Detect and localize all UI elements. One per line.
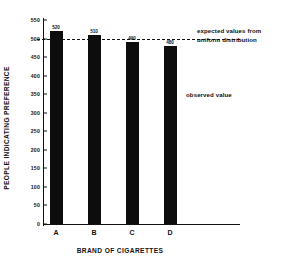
y-axis-tickmark [43, 149, 47, 150]
y-axis-tickmark [43, 94, 47, 95]
plot-area: 501001502002503003504004505005500 520510… [43, 20, 238, 224]
bar-b: 510 [88, 35, 101, 224]
chart-container: 501001502002503003504004505005500 520510… [0, 0, 290, 269]
y-axis-tick-label: 400 [31, 73, 40, 79]
y-axis-tickmark [43, 205, 47, 206]
y-axis-tick-label: 350 [31, 91, 40, 97]
bar-c: 490 [126, 42, 139, 224]
annotation-expected-values: expected values from uniform distributio… [197, 27, 261, 45]
y-axis-tickmark [43, 75, 47, 76]
x-axis-line [43, 224, 240, 225]
y-axis-tickmark [43, 112, 47, 113]
y-axis-tickmark [43, 224, 47, 225]
x-axis-title: BRAND OF CIGARETTES [0, 247, 240, 254]
y-axis-tick-label: 50 [34, 202, 40, 208]
y-axis-tickmark [43, 131, 47, 132]
x-axis-label-c: C [129, 229, 134, 236]
y-axis-tick-label: 300 [31, 110, 40, 116]
y-axis-tickmark [43, 20, 47, 21]
y-axis-tick-label: 550 [31, 17, 40, 23]
y-axis-tickmark [43, 186, 47, 187]
bar-value-label: 520 [52, 25, 60, 30]
y-axis-tick-label: 0 [37, 221, 40, 227]
y-axis-tick-label: 100 [31, 184, 40, 190]
y-axis-tickmark [43, 57, 47, 58]
bar-value-label: 510 [90, 29, 98, 34]
y-axis-tick-label: 200 [31, 147, 40, 153]
x-axis-label-d: D [167, 229, 172, 236]
annotation-expected-line-1: expected values from [197, 27, 261, 36]
y-axis-tick-label: 450 [31, 54, 40, 60]
bar-a: 520 [50, 31, 63, 224]
annotation-expected-line-2: uniform distribution [197, 36, 261, 45]
y-axis-title: PEOPLE INDICATING PREFERENCE [3, 66, 10, 189]
bar-value-label: 480 [166, 40, 174, 45]
y-axis-tick-label: 250 [31, 128, 40, 134]
x-axis-label-a: A [53, 229, 58, 236]
x-axis-label-b: B [91, 229, 96, 236]
bar-d: 480 [164, 46, 177, 224]
annotation-observed-value: observed value [186, 91, 232, 100]
y-axis-tickmark [43, 168, 47, 169]
y-axis-tick-label: 150 [31, 165, 40, 171]
